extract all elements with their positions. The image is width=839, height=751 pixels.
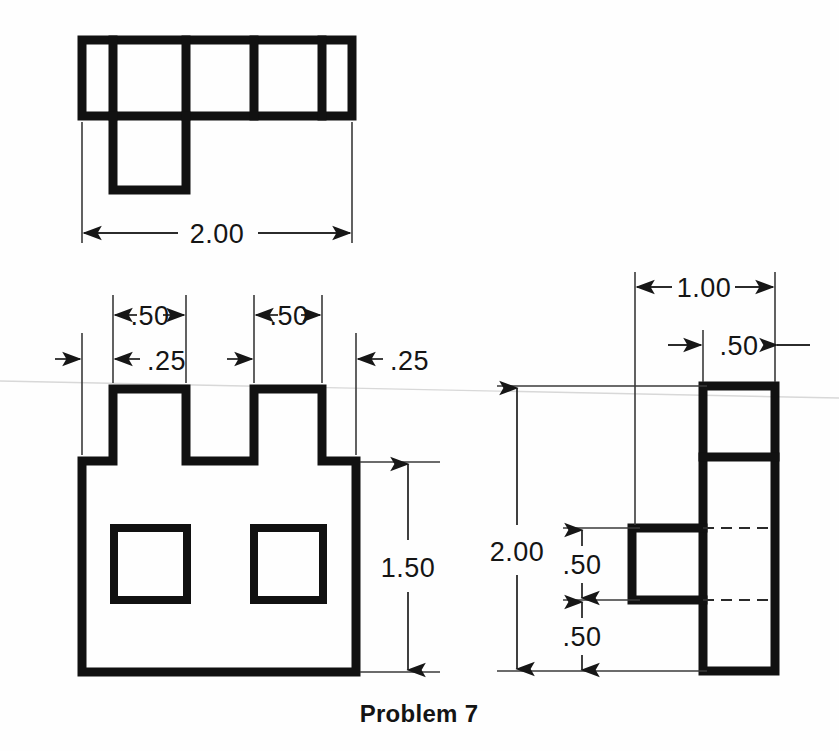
dimension-label-front-right-notch: .25 [390, 346, 429, 376]
dimension-front-left-notch: .25 [115, 346, 186, 376]
dimension-right-depth: 1.00 [637, 273, 773, 303]
right-side-view [632, 386, 775, 671]
top-view [82, 40, 352, 190]
dimension-label-right-foot-height: .50 [562, 550, 601, 580]
dimension-label-top-width: 2.00 [190, 219, 245, 249]
dimension-right-foot-height: .50 [562, 530, 601, 598]
dimension-front-height: 1.50 [360, 462, 440, 672]
front-view-square-hole-right [254, 528, 323, 600]
drawing-canvas: 2.00 .50 .50 [0, 0, 839, 751]
dimension-label-right-depth: 1.00 [677, 273, 732, 303]
right-view-foot [632, 528, 703, 600]
dimension-right-total-height: 2.00 [490, 388, 545, 669]
top-view-tab [113, 116, 186, 190]
front-view-square-hole-left [114, 528, 187, 600]
dimension-right-foot-offset: .50 [562, 602, 601, 670]
dimension-label-right-total-height: 2.00 [490, 537, 545, 567]
dimension-label-right-thickness: .50 [719, 331, 758, 361]
drawing-sheet: 2.00 .50 .50 [0, 0, 839, 751]
dimension-right-thickness: .50 [668, 331, 810, 361]
dimension-label-front-left-notch: .25 [147, 346, 186, 376]
figure-caption: Problem 7 [360, 700, 479, 727]
dimension-label-front-tab1: .50 [130, 301, 169, 331]
dimension-label-front-height: 1.50 [381, 553, 436, 583]
dimension-label-front-tab2: .50 [269, 301, 308, 331]
dimension-front-tab1: .50 [115, 301, 184, 331]
top-view-outline [82, 40, 352, 116]
dimension-front-tab2: .50 [256, 301, 320, 331]
dimension-front-right-notch: .25 [358, 346, 429, 376]
dimension-label-right-foot-offset: .50 [562, 622, 601, 652]
front-view-extension-lines [82, 295, 356, 455]
front-view [82, 389, 356, 672]
